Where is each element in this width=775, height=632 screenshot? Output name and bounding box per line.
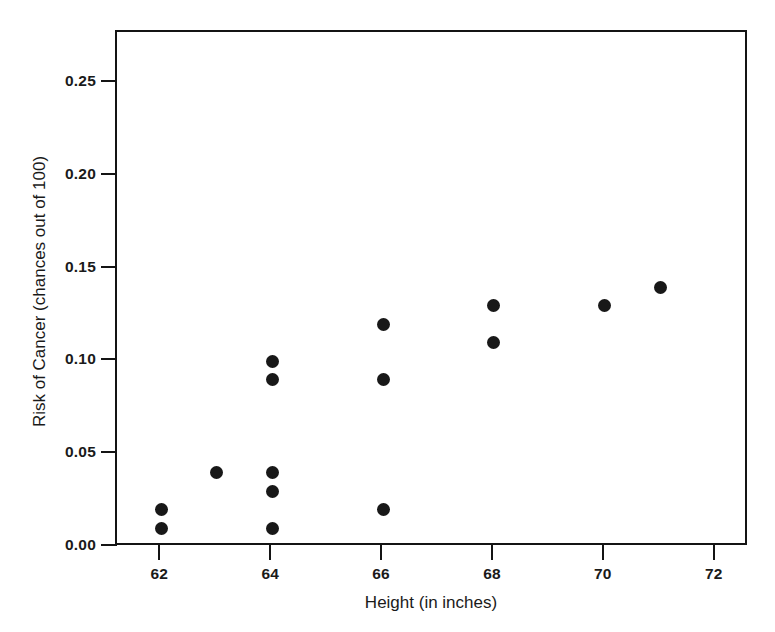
data-point [155,522,168,535]
x-axis-tick-label-wrap: 68 [462,565,522,583]
x-axis-tick-label-wrap: 66 [351,565,411,583]
y-axis-tick-label: 0.05 [40,444,96,460]
x-axis-tick-label: 70 [594,565,612,582]
scatter-plot-figure: 0.000.050.100.150.200.25 626466687072 He… [0,0,775,632]
y-axis-tick-label-wrap: 0.25 [36,73,96,89]
y-axis-tick-mark [101,266,117,268]
y-axis-tick-label-wrap: 0.05 [36,444,96,460]
data-point [266,466,279,479]
y-axis-tick-mark [101,544,117,546]
x-axis-tick-label: 66 [372,565,390,582]
y-axis-title: Risk of Cancer (chances out of 100) [31,156,48,427]
data-point [377,503,390,516]
data-point [654,281,667,294]
x-axis-tick-mark [380,545,382,560]
x-axis-tick-mark [158,545,160,560]
data-point [598,299,611,312]
x-axis-tick-label-wrap: 72 [684,565,744,583]
y-axis-tick-mark [101,80,117,82]
data-point [266,485,279,498]
x-axis-tick-label-wrap: 62 [129,565,189,583]
y-axis-title-wrap: Risk of Cancer (chances out of 100) [0,283,297,301]
x-axis-tick-mark [269,545,271,560]
x-axis-tick-mark [491,545,493,560]
x-axis-tick-label: 62 [151,565,169,582]
x-axis-tick-mark [713,545,715,560]
x-axis-tick-label-wrap: 64 [240,565,300,583]
data-point [266,373,279,386]
data-point [266,355,279,368]
y-axis-tick-mark [101,358,117,360]
x-axis-tick-label: 64 [261,565,279,582]
y-axis-tick-label-wrap: 0.00 [36,537,96,553]
y-axis-tick-mark [101,451,117,453]
data-point [266,522,279,535]
data-point [377,318,390,331]
x-axis-title: Height (in inches) [115,594,747,611]
y-axis-tick-mark [101,173,117,175]
data-point [155,503,168,516]
x-axis-tick-label: 72 [705,565,723,582]
y-axis-tick-label: 0.25 [40,73,96,89]
y-axis-tick-label: 0.00 [40,537,96,553]
x-axis-tick-label-wrap: 70 [573,565,633,583]
data-point [487,336,500,349]
data-point [487,299,500,312]
data-point [377,373,390,386]
x-axis-tick-mark [602,545,604,560]
data-point [210,466,223,479]
x-axis-tick-label: 68 [483,565,501,582]
